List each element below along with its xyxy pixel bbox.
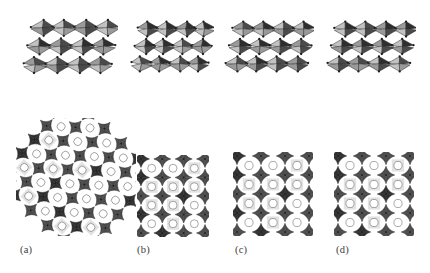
panel-label-d: (d): [336, 245, 349, 256]
structure-bottom-b: [137, 155, 209, 237]
structure-top-a: [22, 14, 118, 80]
panel-label-c: (c): [235, 245, 247, 256]
structure-bottom-d: [334, 152, 414, 236]
figure-root: (a) (b) (c) (d): [0, 0, 430, 273]
structure-top-b: [130, 16, 214, 78]
structure-top-d: [326, 16, 416, 78]
structure-top-c: [224, 16, 314, 78]
structure-bottom-c: [233, 152, 313, 236]
structure-bottom-a: [16, 118, 136, 236]
panel-label-b: (b): [137, 245, 150, 256]
panel-label-a: (a): [20, 245, 32, 256]
